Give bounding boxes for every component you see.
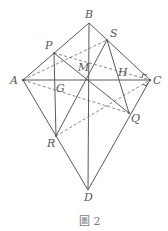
- label-A: A: [9, 74, 18, 87]
- interior-solid-segments: [54, 40, 129, 136]
- label-P: P: [44, 39, 53, 52]
- label-Q: Q: [131, 112, 140, 125]
- dot-P: [53, 52, 55, 54]
- label-G: G: [56, 82, 65, 95]
- label-S: S: [110, 27, 118, 40]
- geometry-figure: B A C D P S M H G Q R 圖 2: [0, 0, 168, 231]
- diagonals: [23, 23, 150, 190]
- figure-caption: 圖 2: [79, 215, 101, 228]
- dot-S: [106, 39, 108, 41]
- dot-A: [22, 79, 24, 81]
- label-D: D: [83, 191, 93, 204]
- dot-R: [55, 135, 57, 137]
- segment-AS: [23, 40, 107, 80]
- label-H: H: [117, 66, 128, 79]
- segment-CD: [88, 80, 150, 190]
- kite-outline: [23, 23, 150, 190]
- segment-PQ: [54, 53, 129, 113]
- segment-RC: [56, 80, 150, 136]
- segment-BD: [88, 23, 89, 190]
- label-B: B: [84, 8, 93, 21]
- label-M: M: [77, 61, 90, 74]
- label-R: R: [46, 137, 55, 150]
- segment-AQ: [23, 80, 129, 113]
- point-labels: B A C D P S M H G Q R: [9, 8, 162, 204]
- label-C: C: [153, 74, 162, 87]
- dot-Q: [128, 112, 130, 114]
- dot-C: [149, 79, 151, 81]
